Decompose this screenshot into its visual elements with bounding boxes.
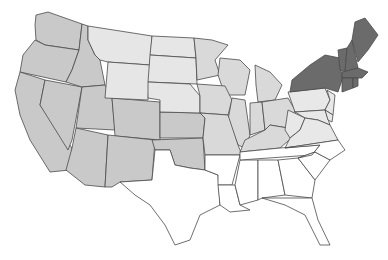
state-ct[interactable] xyxy=(342,78,353,92)
state-wy[interactable] xyxy=(105,62,150,100)
state-ia[interactable] xyxy=(197,84,232,115)
state-nd[interactable] xyxy=(150,36,196,58)
state-ri[interactable] xyxy=(353,78,358,88)
state-ms[interactable] xyxy=(235,160,258,205)
us-map xyxy=(0,0,388,260)
state-fl[interactable] xyxy=(262,198,330,245)
region-midatlantic xyxy=(285,88,338,148)
state-ny[interactable] xyxy=(290,55,342,92)
region-midwest xyxy=(194,38,295,155)
region-northeast xyxy=(290,18,378,92)
state-mi[interactable] xyxy=(255,65,282,102)
state-ks[interactable] xyxy=(160,112,205,138)
state-sd[interactable] xyxy=(148,55,197,84)
state-nm[interactable] xyxy=(105,135,155,187)
state-me[interactable] xyxy=(352,18,378,62)
state-co[interactable] xyxy=(112,98,160,140)
